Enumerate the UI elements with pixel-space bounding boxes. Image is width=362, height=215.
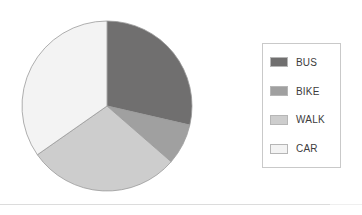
legend-item-list: BUSBIKEWALKCAR	[263, 44, 340, 167]
legend-item[interactable]: BIKE	[263, 79, 340, 103]
legend-item[interactable]: CAR	[263, 137, 340, 161]
legend-item-label: BIKE	[296, 86, 320, 97]
pie-chart-figure: BUSBIKEWALKCAR	[0, 0, 362, 215]
pie-slice-group	[22, 21, 192, 191]
legend-swatch-icon	[270, 144, 288, 154]
legend-swatch-icon	[270, 57, 288, 67]
legend-item-label: CAR	[296, 143, 318, 154]
legend-swatch-icon	[270, 115, 288, 125]
legend-item-label: WALK	[296, 114, 325, 125]
legend-item[interactable]: BUS	[263, 50, 340, 74]
legend-item-label: BUS	[296, 57, 317, 68]
legend-swatch-icon	[270, 86, 288, 96]
legend-item[interactable]: WALK	[263, 108, 340, 132]
pie-svg	[21, 20, 193, 192]
bottom-divider-tail	[330, 204, 362, 205]
bottom-divider	[0, 204, 362, 205]
pie-chart-area	[21, 20, 193, 192]
legend: BUSBIKEWALKCAR	[262, 43, 341, 168]
